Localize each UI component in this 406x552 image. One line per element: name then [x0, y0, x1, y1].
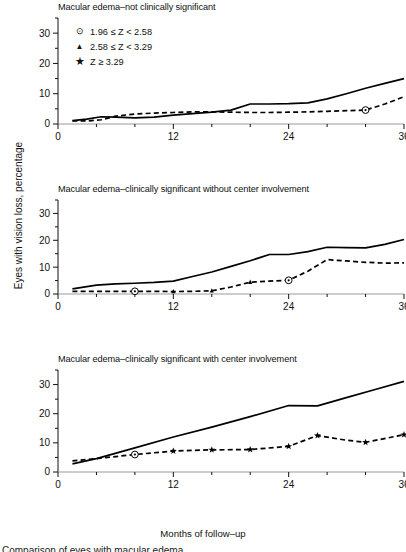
circled-dot-center [134, 453, 136, 455]
series-line-dashed [72, 435, 404, 461]
x-tick-label: 12 [168, 479, 180, 490]
x-tick-label: 12 [168, 301, 180, 312]
circled-dot-center [364, 109, 366, 111]
significance-marker [248, 280, 252, 284]
x-tick-label: 36 [398, 131, 406, 142]
x-tick-label: 36 [398, 479, 406, 490]
star-icon [208, 446, 215, 453]
plot-area-2: 01020300122436 [56, 368, 404, 490]
significance-marker [131, 288, 138, 295]
figure-three-panel-line-chart: Macular edema–not clinically significant… [0, 0, 406, 552]
plot-svg: 01020300122436 [56, 368, 404, 490]
significance-marker [247, 446, 254, 453]
star-icon [314, 432, 321, 439]
y-tick-label: 0 [44, 466, 50, 477]
significance-marker [314, 432, 321, 439]
star-icon [170, 447, 177, 454]
caption-fragment: Comparison of eyes with macular edema [0, 545, 406, 552]
circled-dot-center [288, 279, 290, 281]
plot-svg: 01020300122436 [56, 198, 404, 312]
star-icon [285, 443, 292, 450]
significance-marker [285, 277, 292, 284]
y-tick-label: 20 [39, 58, 51, 69]
significance-marker [208, 446, 215, 453]
significance-marker [285, 443, 292, 450]
x-tick-label: 0 [55, 479, 61, 490]
circled-dot-center [134, 290, 136, 292]
y-tick-label: 0 [44, 118, 50, 129]
y-tick-label: 30 [39, 208, 51, 219]
x-tick-label: 12 [168, 131, 180, 142]
series-line-solid [72, 79, 404, 121]
significance-marker [170, 447, 177, 454]
panel-title: Macular edema–not clinically significant [58, 2, 215, 12]
plot-area-1: 01020300122436 [56, 198, 404, 312]
significance-marker [362, 107, 369, 114]
y-tick-label: 20 [39, 408, 51, 419]
triangle-icon [248, 280, 252, 284]
x-tick-label: 24 [283, 131, 295, 142]
panel-title: Macular edema–clinically significant wit… [58, 354, 297, 364]
y-tick-label: 10 [39, 262, 51, 273]
chart-panel-1: Macular edema–clinically significant wit… [0, 170, 406, 340]
x-tick-label: 0 [55, 301, 61, 312]
caption-text: Comparison of eyes with macular edema [0, 545, 406, 552]
y-tick-label: 30 [39, 379, 51, 390]
x-tick-label: 24 [283, 301, 295, 312]
y-tick-label: 10 [39, 437, 51, 448]
significance-marker [131, 451, 138, 458]
x-axis-label: Months of follow–up [0, 528, 406, 539]
panel-title: Macular edema–clinically significant wit… [58, 184, 309, 194]
series-line-solid [72, 239, 404, 288]
y-tick-label: 10 [39, 88, 51, 99]
x-tick-label: 36 [398, 301, 406, 312]
x-tick-label: 0 [55, 131, 61, 142]
chart-panel-2: Macular edema–clinically significant wit… [0, 340, 406, 530]
star-icon [362, 439, 369, 446]
star-icon [247, 446, 254, 453]
series-line-solid [72, 381, 404, 463]
y-tick-label: 20 [39, 235, 51, 246]
y-tick-label: 0 [44, 288, 50, 299]
chart-panel-0: Macular edema–not clinically significant… [0, 0, 406, 170]
y-tick-label: 30 [39, 28, 51, 39]
y-axis-label: Eyes with vision loss, percentage [13, 121, 24, 311]
plot-area-0: 01020300122436 [56, 16, 404, 142]
x-tick-label: 24 [283, 479, 295, 490]
significance-marker [362, 439, 369, 446]
plot-svg: 01020300122436 [56, 16, 404, 142]
